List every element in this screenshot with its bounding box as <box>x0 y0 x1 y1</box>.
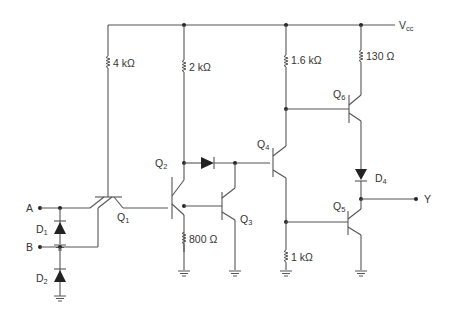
resistor-2k-label: 2 kΩ <box>189 62 211 73</box>
input-b-label: B <box>26 242 33 253</box>
resistor-800-label: 800 Ω <box>189 234 217 245</box>
resistor-1.6k-label: 1.6 kΩ <box>291 55 322 66</box>
transistor-q2-label: Q2 <box>155 158 167 171</box>
diode-d4-label: D4 <box>375 173 387 186</box>
schematic-wires <box>0 0 452 321</box>
resistor-1k-label: 1 kΩ <box>291 252 313 263</box>
vcc-label: Vcc <box>399 20 414 33</box>
resistor-4k-label: 4 kΩ <box>113 58 135 69</box>
transistor-q4-label: Q4 <box>257 139 269 152</box>
resistor-130-label: 130 Ω <box>366 51 394 62</box>
transistor-q5-label: Q5 <box>333 201 345 214</box>
transistor-q3-label: Q3 <box>240 214 252 227</box>
diode-d2-label: D2 <box>36 273 48 286</box>
transistor-q6-label: Q6 <box>333 89 345 102</box>
transistor-q1-label: Q1 <box>117 212 129 225</box>
diode-d1-label: D1 <box>36 224 48 237</box>
input-a-label: A <box>26 203 33 214</box>
output-y-label: Y <box>424 194 431 205</box>
ttl-nand-circuit-diagram: Vcc 4 kΩ 2 kΩ 1.6 kΩ 130 Ω 800 Ω 1 kΩ A … <box>0 0 452 321</box>
